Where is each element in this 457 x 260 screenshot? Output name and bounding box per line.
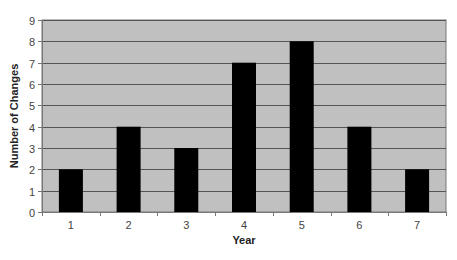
x-tick-label: 7	[414, 219, 420, 231]
bar-year-2	[117, 127, 141, 212]
bar-year-3	[174, 148, 198, 212]
y-tick-label: 9	[29, 15, 35, 27]
y-tick-label: 4	[29, 122, 35, 134]
y-tick-label: 8	[29, 36, 35, 48]
x-tick-label: 5	[299, 219, 305, 231]
x-tick-label: 4	[241, 219, 247, 231]
bar-year-7	[405, 169, 429, 212]
x-tick-label: 1	[68, 219, 74, 231]
y-tick-label: 2	[29, 164, 35, 176]
bar-chart: 0123456789 1234567 Number of Changes Yea…	[0, 0, 457, 260]
chart-canvas: 0123456789 1234567	[0, 0, 457, 260]
bar-year-1	[59, 169, 83, 212]
bar-year-4	[232, 63, 256, 212]
bar-year-6	[347, 127, 371, 212]
x-tick-label: 3	[183, 219, 189, 231]
y-tick-label: 7	[29, 58, 35, 70]
y-axis-title: Number of Changes	[4, 20, 24, 212]
y-tick-label: 5	[29, 100, 35, 112]
y-axis-title-text: Number of Changes	[8, 64, 20, 169]
y-tick-label: 1	[29, 186, 35, 198]
y-tick-label: 3	[29, 143, 35, 155]
y-tick-label: 6	[29, 79, 35, 91]
x-tick-label: 6	[356, 219, 362, 231]
x-axis-title: Year	[42, 234, 446, 246]
x-tick-labels: 1234567	[68, 219, 420, 231]
x-tick-label: 2	[126, 219, 132, 231]
y-tick-labels: 0123456789	[29, 15, 35, 219]
bar-year-5	[290, 41, 314, 212]
y-tick-label: 0	[29, 207, 35, 219]
